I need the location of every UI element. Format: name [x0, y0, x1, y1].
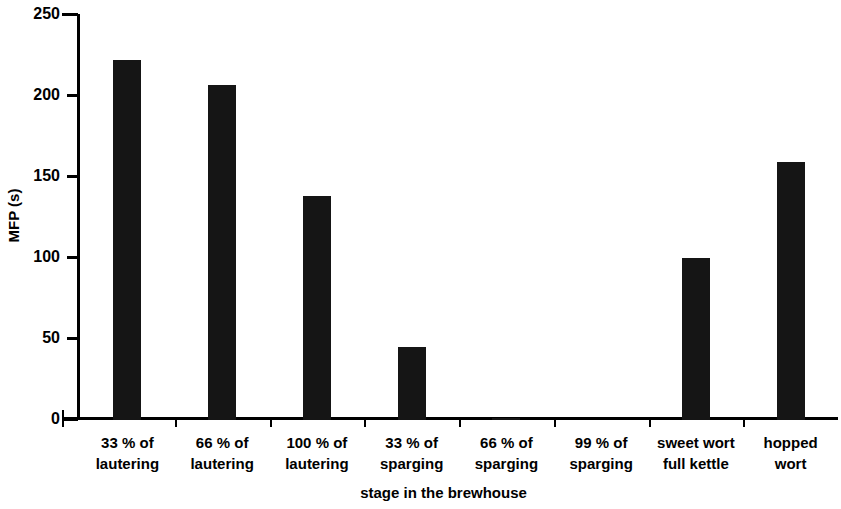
y-axis-tick-mark	[67, 256, 78, 259]
x-axis-tick-label: 33 % of sparging	[364, 432, 459, 474]
bar	[208, 85, 236, 420]
y-axis-tick-mark	[67, 175, 78, 178]
plot-area	[80, 14, 838, 420]
x-axis-tick-label: 33 % of lautering	[80, 432, 175, 474]
bar	[777, 162, 805, 420]
y-axis-tick-mark	[62, 13, 78, 16]
y-axis-tick-labels: 050100150200250	[14, 0, 60, 509]
bar-chart: MFP (s) 050100150200250 33 % of lauterin…	[0, 0, 841, 509]
x-axis-tick-label: 100 % of lautering	[270, 432, 365, 474]
bar	[113, 60, 141, 420]
y-axis-tick-label: 250	[14, 6, 60, 22]
y-axis-tick-mark	[67, 337, 78, 340]
y-axis-tick-label: 100	[14, 249, 60, 265]
x-axis-tick-label: 66 % of lautering	[175, 432, 270, 474]
bar	[682, 258, 710, 420]
x-axis-origin-tick	[62, 410, 64, 427]
y-axis-tick-mark	[67, 94, 78, 97]
y-axis-tick-label: 0	[14, 411, 60, 427]
y-axis-tick-label: 200	[14, 87, 60, 103]
bar	[492, 418, 520, 420]
bar	[303, 196, 331, 420]
y-axis-tick-label: 150	[14, 168, 60, 184]
x-axis-tick-label: hopped wort	[743, 432, 838, 474]
x-axis-title-text: stage in the brewhouse	[360, 484, 527, 501]
y-axis-tick-label: 50	[14, 330, 60, 346]
x-axis-tick-label: sweet wort full kettle	[649, 432, 744, 474]
x-axis-title: stage in the brewhouse	[0, 484, 841, 501]
x-axis-tick-label: 66 % of sparging	[459, 432, 554, 474]
bar	[398, 347, 426, 420]
x-axis-tick-label: 99 % of sparging	[554, 432, 649, 474]
